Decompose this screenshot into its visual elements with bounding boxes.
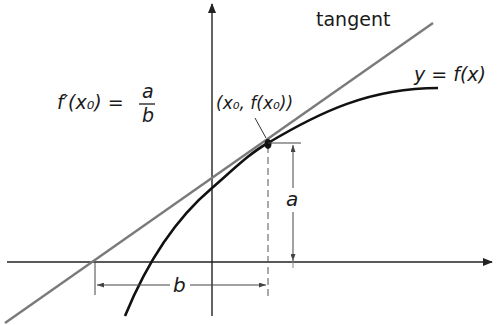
curve-label: y = f(x)	[413, 63, 486, 85]
formula-numerator: a	[142, 80, 154, 102]
tangent-point	[265, 139, 272, 149]
function-curve	[125, 88, 438, 316]
formula-denominator: b	[142, 104, 154, 126]
point-label: (x₀, f(x₀))	[216, 93, 293, 113]
tangent-label: tangent	[316, 8, 390, 30]
tangent-line	[5, 23, 433, 323]
point-label-pointer	[255, 118, 266, 138]
formula-lhs: f′(x₀) =	[57, 91, 124, 113]
tangent-diagram: tangent y = f(x) (x₀, f(x₀)) f′(x₀) = a …	[0, 0, 500, 325]
rise-label: a	[286, 187, 298, 211]
run-label: b	[173, 273, 186, 297]
